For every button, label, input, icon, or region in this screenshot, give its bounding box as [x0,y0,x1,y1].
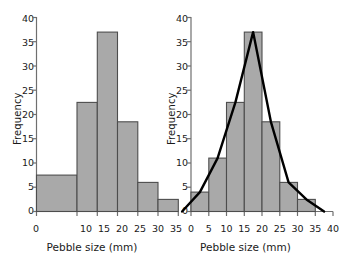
histogram-bar [37,175,78,211]
histogram-bar [138,182,158,211]
histogram-bars-right [191,32,315,211]
x-tick-marks [37,212,179,217]
histogram-bar [191,192,209,211]
histogram-bar [262,122,280,212]
x-axis-label-right: Pebble size (mm) [168,241,323,253]
chart-panel-right: Frequency 40 35 30 25 20 15 10 5 0 0 5 1… [160,0,323,266]
x-axis-label-left: Pebble size (mm) [12,241,172,253]
histogram-bar [77,102,97,211]
histogram-bar [97,32,117,211]
histogram-bar [209,158,227,211]
histogram-bars-left [37,32,179,211]
y-tick-marks [187,18,192,212]
chart-panel-left: Frequency 40 35 30 25 20 15 10 5 0 0 10 … [0,0,160,266]
histogram-bar [298,199,316,211]
plot-area-right [160,0,344,230]
y-tick-marks [32,18,37,212]
x-tick-marks [191,212,333,217]
histogram-bar [118,122,138,212]
